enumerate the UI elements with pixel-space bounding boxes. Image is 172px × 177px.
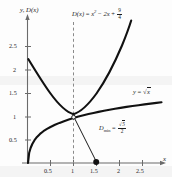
x-tick-label-2: 2 <box>117 168 120 174</box>
eq-lhs: D(x) <box>72 10 84 17</box>
dmin-radicand: 5 <box>122 120 126 127</box>
x-tick-label-1: 1 <box>71 168 74 174</box>
y-tick-label-0-5: 0.5 <box>9 137 17 143</box>
y-axis-arrow <box>25 14 29 20</box>
distance-segment <box>74 117 96 161</box>
equation-parabola: D(x) = x2 − 2x + 94 <box>72 8 122 20</box>
dmin-fraction: √52 <box>118 122 127 134</box>
y-axis-label: y, D(x) <box>20 7 39 14</box>
dmin-frac-numerator: √5 <box>118 122 127 128</box>
y-tick-label-1: 1 <box>13 114 16 120</box>
figure-distance-minimization: y, D(x) x y = √x 2.5 2 1.5 1 0.5 0.5 1 1… <box>0 0 172 177</box>
intersection-point-marker <box>72 115 76 119</box>
eq-fraction: 94 <box>117 8 122 20</box>
curve-sqrt-x <box>28 102 162 163</box>
curve-parabola-D <box>28 21 131 115</box>
y-tick-label-2-5: 2.5 <box>9 43 17 49</box>
y-tick-label-1-5: 1.5 <box>9 90 17 96</box>
x-axis-label: x <box>163 156 166 163</box>
x-tick-label-2-5: 2.5 <box>136 168 144 174</box>
dmin-frac-denominator: 2 <box>118 128 127 135</box>
curve-label-sqrt: y = √x <box>133 89 151 96</box>
eq-frac-denominator: 4 <box>117 14 122 21</box>
x-tick-label-0-5: 0.5 <box>44 168 52 174</box>
curve-label-text: y = √x <box>133 87 151 95</box>
x-tick-label-1-5: 1.5 <box>90 168 98 174</box>
annotation-d-min: Dmin = √52 <box>99 122 127 134</box>
point-marker-1-5 <box>93 159 99 165</box>
y-tick-label-2: 2 <box>13 67 16 73</box>
